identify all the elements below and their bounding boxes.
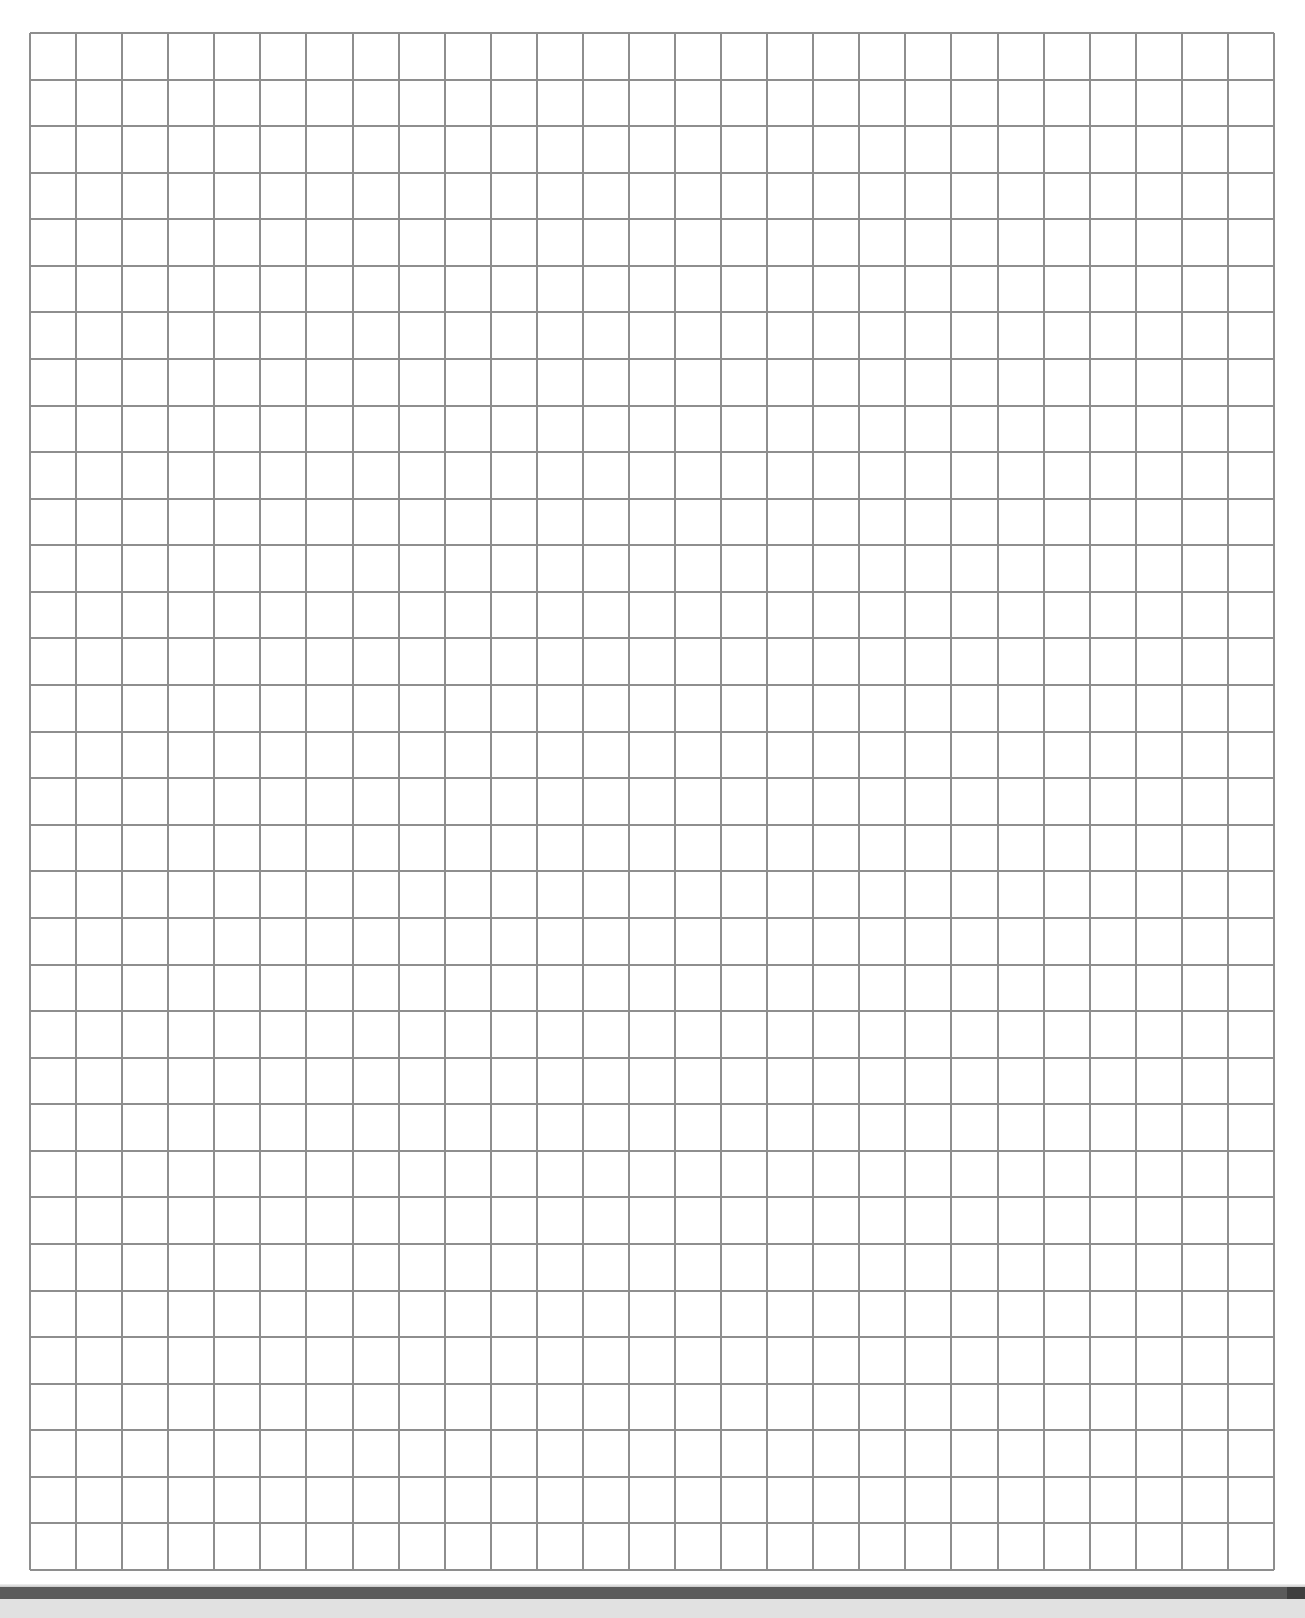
page-divider-bar xyxy=(0,1587,1305,1599)
graph-paper-page xyxy=(0,0,1305,1586)
square-grid xyxy=(30,33,1274,1570)
viewer-background-gap xyxy=(0,1599,1305,1618)
grid-lines xyxy=(30,33,1274,1570)
